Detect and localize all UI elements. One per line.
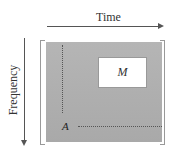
left-bracket [40,40,45,145]
time-axis-label: Time [96,10,121,24]
corner-label-a: A [62,120,69,132]
mask-region-box: M [98,57,147,88]
mask-label: M [118,65,128,80]
arrow-right-icon [158,23,164,29]
vertical-dotted-line [62,45,63,113]
arrow-down-icon [21,140,27,146]
time-arrow-line [47,26,160,27]
frequency-arrow-line [24,38,25,142]
frequency-axis-label: Frequency [6,60,20,120]
horizontal-dotted-line [78,126,162,127]
